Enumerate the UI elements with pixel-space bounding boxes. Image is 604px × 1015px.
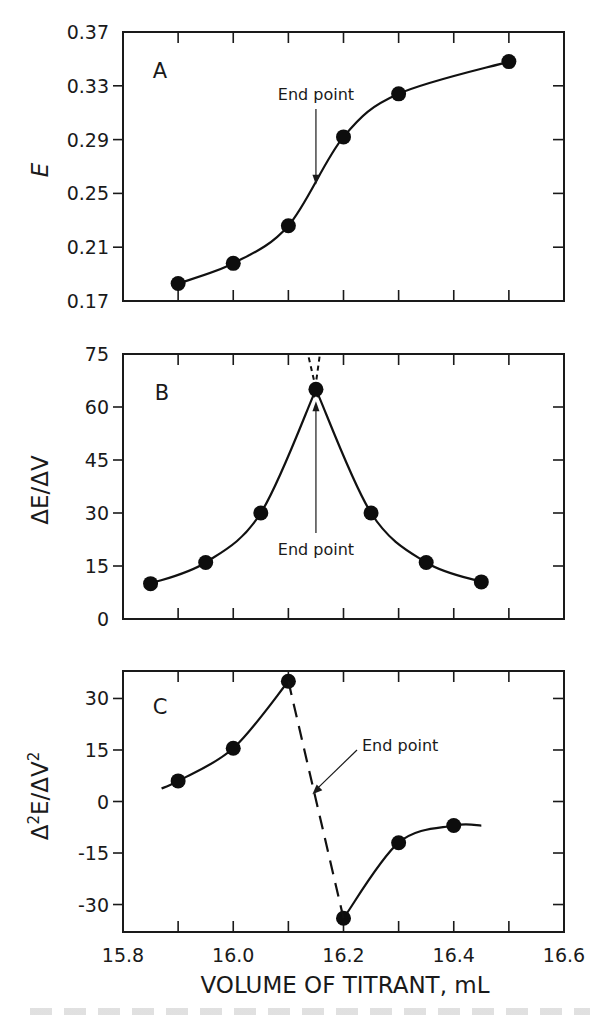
y-tick-label: 0.21: [67, 236, 109, 258]
data-point: [281, 218, 296, 233]
y-axis-title-c: Δ2E/ΔV2: [25, 752, 53, 841]
data-point: [364, 506, 379, 521]
panel-letter: A: [153, 59, 168, 83]
dashed-connector: [288, 681, 343, 918]
data-curve: [162, 681, 289, 788]
titration-figure: 0.170.210.250.290.330.37AEnd point 01530…: [0, 0, 604, 1015]
panel-letter: B: [155, 381, 169, 405]
end-point-label: End point: [278, 540, 354, 559]
y-axis-title-b: ΔE/ΔV: [27, 455, 53, 525]
data-point: [391, 835, 406, 850]
x-axis-title: VOLUME OF TITRANT, mL: [200, 972, 489, 998]
y-axis-title-a: E: [27, 162, 53, 177]
arrow-head: [312, 175, 319, 185]
data-point: [308, 382, 323, 397]
y-tick-label: 0: [97, 791, 109, 813]
data-point: [336, 129, 351, 144]
panel-b: 01530456075BEnd point: [85, 343, 564, 630]
x-tick-label: 16.2: [322, 944, 364, 966]
y-title-c-sup2: 2: [25, 752, 43, 762]
arrow-head: [312, 401, 319, 411]
data-point: [198, 555, 213, 570]
plot-frame: [123, 671, 564, 932]
y-tick-label: 0.33: [67, 75, 109, 97]
data-point: [501, 54, 516, 69]
panel-c: 30150-15-3015.816.016.216.416.6CEnd poin…: [78, 671, 585, 966]
data-point: [226, 741, 241, 756]
data-point: [171, 276, 186, 291]
y-tick-label: -30: [78, 894, 109, 916]
end-point-label: End point: [362, 736, 438, 755]
x-tick-label: 16.4: [433, 944, 475, 966]
data-point: [171, 773, 186, 788]
y-tick-label: 0.25: [67, 182, 109, 204]
y-tick-label: 0.29: [67, 129, 109, 151]
y-tick-label: -15: [78, 842, 109, 864]
panel-a: 0.170.210.250.290.330.37AEnd point: [67, 21, 564, 312]
end-point-label: End point: [278, 85, 354, 104]
data-point: [419, 555, 434, 570]
plot-frame: [123, 32, 564, 301]
y-tick-label: 30: [85, 502, 109, 524]
x-tick-label: 15.8: [102, 944, 144, 966]
plot-frame: [123, 354, 564, 619]
arrow-head: [312, 784, 322, 794]
y-title-c-mid: E/ΔV: [27, 761, 53, 815]
data-point: [253, 506, 268, 521]
y-tick-label: 60: [85, 396, 109, 418]
y-tick-label: 30: [85, 687, 109, 709]
end-point-arrow: [316, 750, 357, 789]
y-tick-label: 45: [85, 449, 109, 471]
y-tick-label: 15: [85, 555, 109, 577]
y-tick-label: 0.17: [67, 290, 109, 312]
y-tick-label: 15: [85, 739, 109, 761]
data-point: [474, 574, 489, 589]
y-tick-label: 0: [97, 608, 109, 630]
y-title-c-delta: Δ: [27, 824, 53, 840]
y-tick-label: 75: [85, 343, 109, 365]
x-tick-label: 16.0: [212, 944, 254, 966]
data-point: [143, 576, 158, 591]
cropped-caption-line: [30, 1008, 590, 1015]
data-point: [391, 86, 406, 101]
x-tick-label: 16.6: [543, 944, 585, 966]
data-curve: [344, 824, 482, 918]
data-point: [446, 818, 461, 833]
data-point: [226, 256, 241, 271]
panel-letter: C: [153, 695, 168, 719]
y-tick-label: 0.37: [67, 21, 109, 43]
y-title-c-sup1: 2: [25, 815, 43, 825]
